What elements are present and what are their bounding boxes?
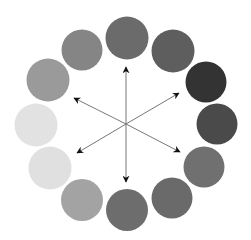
color-circle-6 <box>152 178 193 219</box>
direction-arrows <box>74 67 180 182</box>
color-circle-4 <box>197 104 238 145</box>
color-circle-7 <box>106 189 148 231</box>
color-circle-5 <box>184 147 225 188</box>
arrow-upper-right <box>126 93 179 124</box>
arrow-lower-left <box>77 124 126 153</box>
color-circle-12 <box>62 30 103 71</box>
color-circle-11 <box>27 59 70 102</box>
arrow-upper-left <box>74 98 126 124</box>
arrow-lower-right <box>126 124 180 152</box>
color-circle-2 <box>152 30 195 73</box>
color-circle-1 <box>106 17 149 60</box>
color-circle-10 <box>15 104 58 147</box>
color-circle-3 <box>186 62 227 103</box>
color-circle-9 <box>29 147 72 190</box>
color-circle-8 <box>61 179 103 221</box>
color-wheel-diagram <box>0 0 251 240</box>
